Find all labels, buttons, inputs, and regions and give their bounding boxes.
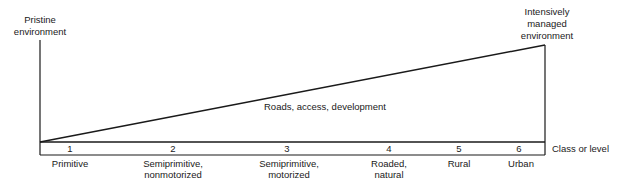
class-number-3: 3 (284, 143, 289, 154)
pristine-environment-label: Pristine environment (14, 14, 66, 38)
class-name-semiprimitive-motorized: Semiprimitive, motorized (259, 158, 319, 180)
class-name-rural: Rural (448, 158, 471, 169)
class-3-line-2: motorized (259, 169, 319, 180)
intensive-line-1: Intensively (521, 6, 573, 18)
class-name-roaded-natural: Roaded, natural (371, 158, 407, 180)
class-4-line-2: natural (371, 169, 407, 180)
class-number-5: 5 (456, 143, 461, 154)
class-5-line-1: Rural (448, 158, 471, 169)
class-number-2: 2 (170, 143, 175, 154)
slope-label: Roads, access, development (264, 101, 386, 113)
class-number-1: 1 (67, 143, 72, 154)
class-2-line-1: Semiprimitive, (143, 158, 203, 169)
class-or-level-label: Class or level (552, 143, 609, 155)
class-2-line-2: nonmotorized (143, 169, 203, 180)
class-1-line-1: Primitive (52, 158, 88, 169)
development-slope-line (40, 45, 545, 142)
intensive-line-3: environment (521, 30, 573, 42)
class-6-line-1: Urban (508, 158, 534, 169)
class-number-4: 4 (386, 143, 391, 154)
class-3-line-1: Semiprimitive, (259, 158, 319, 169)
class-name-urban: Urban (508, 158, 534, 169)
class-name-semiprimitive-nonmotorized: Semiprimitive, nonmotorized (143, 158, 203, 180)
intensive-line-2: managed (521, 18, 573, 30)
class-number-6: 6 (516, 143, 521, 154)
intensively-managed-label: Intensively managed environment (521, 6, 573, 42)
pristine-line-1: Pristine (14, 14, 66, 26)
pristine-line-2: environment (14, 26, 66, 38)
class-4-line-1: Roaded, (371, 158, 407, 169)
class-name-primitive: Primitive (52, 158, 88, 169)
